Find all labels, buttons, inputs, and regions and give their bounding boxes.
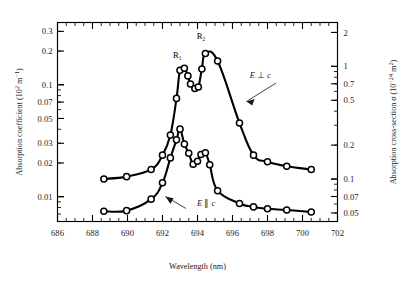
data-point-marker bbox=[148, 166, 154, 172]
data-point-marker bbox=[148, 196, 154, 202]
data-point-marker bbox=[194, 158, 200, 164]
x-axis-title: Wavelength (nm) bbox=[169, 262, 226, 271]
y-axis-left-title: Absorption coefficient (102 m−1) bbox=[13, 68, 24, 176]
data-point-marker bbox=[284, 207, 290, 213]
data-point-marker bbox=[124, 208, 130, 214]
x-tick-label: 688 bbox=[86, 228, 99, 238]
data-point-marker bbox=[199, 66, 205, 72]
data-point-marker bbox=[264, 206, 270, 212]
peak-label-r2: R₂ bbox=[197, 31, 206, 41]
data-point-marker bbox=[284, 163, 290, 169]
data-point-marker bbox=[173, 95, 179, 101]
data-point-marker bbox=[236, 200, 242, 206]
data-point-marker bbox=[159, 180, 165, 186]
data-point-marker bbox=[207, 162, 213, 168]
y-tick-label-left: 0.07 bbox=[37, 97, 53, 107]
data-point-marker bbox=[215, 58, 221, 64]
annotation-arrow-e-perp-c bbox=[247, 83, 277, 105]
y-tick-label-right: 1 bbox=[344, 61, 348, 71]
y-tick-label-right: 0.07 bbox=[344, 192, 360, 202]
y-tick-label-right: 0.05 bbox=[344, 208, 359, 218]
y-axis-right-title: Absorption cross-section σ (10−24 m2) bbox=[387, 59, 398, 184]
data-point-marker bbox=[177, 126, 183, 132]
y-tick-label-left: 0.3 bbox=[42, 26, 53, 36]
data-point-marker bbox=[173, 137, 179, 143]
y-tick-label-right: 0.7 bbox=[344, 79, 355, 89]
data-point-marker bbox=[101, 208, 107, 214]
data-point-marker bbox=[308, 166, 314, 172]
data-point-marker bbox=[264, 159, 270, 165]
y-tick-label-left: 0.01 bbox=[37, 192, 52, 202]
x-tick-label: 692 bbox=[156, 228, 169, 238]
y-tick-label-left: 0.05 bbox=[37, 114, 52, 124]
x-tick-label: 686 bbox=[51, 228, 65, 238]
data-point-marker bbox=[167, 155, 173, 161]
series-label-e-perp-c: E ⊥ c bbox=[249, 70, 272, 80]
svg-text:Absorption cross-section σ (10: Absorption cross-section σ (10−24 m2) bbox=[387, 59, 398, 184]
data-point-marker bbox=[202, 51, 208, 57]
data-point-marker bbox=[308, 209, 314, 215]
data-point-marker bbox=[181, 65, 187, 71]
x-axis-tick-labels: 686688690692694696698700702 bbox=[51, 228, 344, 238]
data-point-marker bbox=[215, 188, 221, 194]
series-label-e-par-c: E ∥ c bbox=[196, 198, 216, 208]
y-tick-label-right: 0.1 bbox=[344, 174, 355, 184]
data-point-marker bbox=[186, 150, 192, 156]
data-point-marker bbox=[101, 176, 107, 182]
data-point-marker bbox=[195, 84, 201, 90]
chart-annotations: R₁R₂E ⊥ cE ∥ c bbox=[173, 31, 271, 208]
y-tick-label-left: 0.1 bbox=[42, 80, 53, 90]
x-tick-label: 700 bbox=[296, 228, 309, 238]
data-point-marker bbox=[167, 132, 173, 138]
data-point-marker bbox=[181, 141, 187, 147]
x-axis-ticks bbox=[58, 23, 338, 222]
y-tick-label-right: 0.2 bbox=[344, 140, 355, 150]
data-series-layer bbox=[101, 51, 314, 216]
data-point-marker bbox=[202, 150, 208, 156]
y-axis-left-tick-labels: 0.010.020.030.050.070.10.20.3 bbox=[37, 26, 53, 201]
x-tick-label: 702 bbox=[331, 228, 344, 238]
data-point-marker bbox=[250, 152, 256, 158]
data-point-marker bbox=[124, 174, 130, 180]
y-axis-right-tick-labels: 0.050.070.10.20.50.712 bbox=[344, 28, 360, 219]
data-point-marker bbox=[159, 152, 165, 158]
x-tick-label: 698 bbox=[261, 228, 274, 238]
y-axis-left-ticks bbox=[58, 31, 65, 221]
data-point-marker bbox=[236, 120, 242, 126]
y-tick-label-right: 0.5 bbox=[344, 95, 355, 105]
x-tick-label: 696 bbox=[226, 228, 240, 238]
absorption-spectrum-chart: 686688690692694696698700702 0.010.020.03… bbox=[0, 0, 413, 282]
x-tick-label: 694 bbox=[191, 228, 205, 238]
x-tick-label: 690 bbox=[121, 228, 134, 238]
y-tick-label-left: 0.2 bbox=[42, 46, 53, 56]
svg-text:Absorption coefficient (102 m−: Absorption coefficient (102 m−1) bbox=[13, 68, 24, 176]
y-tick-label-left: 0.03 bbox=[37, 138, 52, 148]
annotation-arrow-e-par-c bbox=[166, 197, 187, 209]
data-point-marker bbox=[250, 204, 256, 210]
data-point-marker bbox=[185, 73, 191, 79]
peak-label-r1: R₁ bbox=[173, 50, 182, 60]
y-axis-right-ticks bbox=[331, 32, 338, 213]
y-tick-label-right: 2 bbox=[344, 28, 348, 38]
plot-frame bbox=[58, 23, 338, 222]
y-tick-label-left: 0.02 bbox=[37, 158, 52, 168]
